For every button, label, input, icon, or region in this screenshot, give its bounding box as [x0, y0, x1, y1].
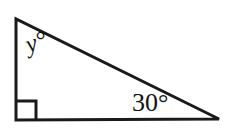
geometry-figure: y° 30° — [0, 0, 231, 133]
angle-label-30: 30° — [132, 90, 168, 116]
triangle-svg — [0, 0, 231, 133]
right-triangle-outline — [16, 19, 219, 120]
